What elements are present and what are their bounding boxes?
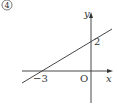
y-axis-label: y	[83, 8, 90, 19]
graph-diagram: 4 y x O 2 −3	[0, 0, 117, 105]
problem-number-badge: 4	[2, 0, 12, 10]
x-axis-label: x	[106, 73, 112, 84]
origin-label: O	[80, 73, 88, 84]
problem-number: 4	[4, 1, 9, 10]
y-intercept-label: 2	[94, 36, 100, 47]
x-intercept-label: −3	[33, 73, 48, 84]
